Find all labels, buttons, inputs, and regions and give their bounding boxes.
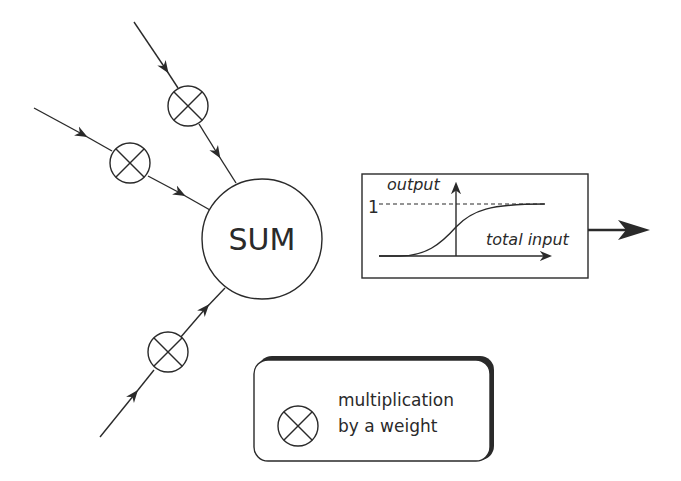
legend-line-1: multiplication	[338, 390, 454, 410]
multiply-circle-icon	[168, 86, 208, 126]
sum-label: SUM	[229, 222, 296, 257]
level-label: 1	[368, 197, 379, 217]
legend-multiply-icon	[278, 406, 318, 446]
neuron-diagram: SUM 1 output total input multiplication …	[0, 0, 681, 481]
x-axis-label: total input	[486, 230, 570, 249]
y-axis-label: output	[387, 175, 441, 194]
output-arrow	[588, 220, 650, 240]
multiply-circle-icon	[110, 143, 150, 183]
legend-box: multiplication by a weight	[254, 356, 494, 461]
sum-node: SUM	[202, 179, 322, 299]
multiply-circle-icon	[148, 332, 188, 372]
legend-line-2: by a weight	[338, 416, 438, 436]
activation-function-box: 1 output total input	[362, 174, 588, 278]
